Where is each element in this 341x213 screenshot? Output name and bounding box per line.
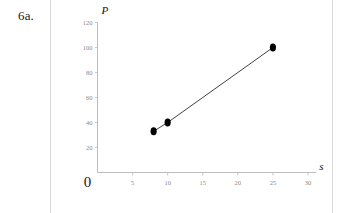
data-point-marker: [270, 44, 276, 52]
y-tick-label: 100: [83, 44, 93, 51]
data-point-marker: [151, 127, 157, 135]
x-axis-label: s: [319, 160, 323, 172]
data-points: [151, 44, 276, 136]
scatter-chart: 20406080100120 51015202530 P s 0: [0, 0, 341, 213]
x-tick-label: 10: [164, 179, 171, 186]
x-tick-label: 15: [200, 179, 207, 186]
y-tick-label: 80: [86, 69, 93, 76]
figure-page: 6a. 20406080100120 51015202530 P s 0: [0, 0, 341, 213]
y-tick-label: 60: [86, 94, 93, 101]
x-tick-label: 25: [270, 179, 277, 186]
y-tick-label: 40: [86, 119, 93, 126]
chart-canvas: 20406080100120 51015202530 P s 0: [0, 0, 341, 213]
y-tick-label: 120: [83, 19, 93, 26]
y-tick-label: 20: [86, 144, 93, 151]
series-line: [154, 48, 273, 132]
y-axis-label: P: [101, 4, 109, 16]
origin-label: 0: [84, 174, 92, 190]
x-tick-label: 5: [131, 179, 134, 186]
x-tick-label: 30: [305, 179, 312, 186]
x-axis-ticks: 51015202530: [131, 173, 311, 186]
y-axis-ticks: 20406080100120: [83, 19, 98, 151]
data-point-marker: [165, 119, 171, 127]
x-tick-label: 20: [235, 179, 242, 186]
